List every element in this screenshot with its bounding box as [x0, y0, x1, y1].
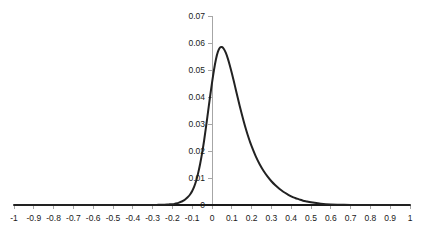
x-axis-tick-label: -0.6: [86, 213, 101, 223]
y-axis-tick-label: 0.04: [188, 92, 205, 102]
y-axis-tick-label: 0.05: [188, 65, 205, 75]
x-axis-tick-label: -0.4: [125, 213, 140, 223]
x-axis-tick-label: 0.5: [305, 213, 317, 223]
x-axis-tick-label: -0.5: [106, 213, 121, 223]
y-axis-tick-label: 0.07: [188, 11, 205, 21]
x-axis-tick-label: -1: [10, 213, 18, 223]
x-axis-tick-label: 0.9: [384, 213, 396, 223]
x-axis-tick-label: -0.2: [165, 213, 180, 223]
y-axis-tick-label: 0.02: [188, 146, 205, 156]
density-line-chart: 00.010.020.030.040.050.060.07 -1-0.9-0.8…: [0, 0, 422, 240]
x-axis-tick-label: -0.1: [185, 213, 200, 223]
x-axis-tick-label: 0.2: [246, 213, 258, 223]
x-axis-labels: -1-0.9-0.8-0.7-0.6-0.5-0.4-0.3-0.2-0.100…: [10, 213, 412, 223]
y-axis-tick-label: 0: [200, 200, 205, 210]
x-axis-tick-label: 0.1: [226, 213, 238, 223]
x-axis-tick-label: -0.7: [66, 213, 81, 223]
x-axis-tick-label: 0.4: [285, 213, 297, 223]
x-axis-tick-label: -0.3: [145, 213, 160, 223]
x-axis-tick-label: 0.6: [325, 213, 337, 223]
y-axis-tick-label: 0.01: [188, 173, 205, 183]
y-axis-labels: 00.010.020.030.040.050.060.07: [188, 11, 205, 210]
x-axis-tick-label: 0.3: [265, 213, 277, 223]
x-axis-tick-label: 0: [210, 213, 215, 223]
x-axis-tick-label: -0.9: [26, 213, 41, 223]
x-axis-tick-label: -0.8: [46, 213, 61, 223]
chart-container: 00.010.020.030.040.050.060.07 -1-0.9-0.8…: [0, 0, 422, 240]
x-axis-tick-label: 0.7: [345, 213, 357, 223]
y-axis-tick-label: 0.06: [188, 38, 205, 48]
x-axis-tick-label: 0.8: [364, 213, 376, 223]
y-axis-tick-label: 0.03: [188, 119, 205, 129]
x-axis-tick-label: 1: [408, 213, 413, 223]
